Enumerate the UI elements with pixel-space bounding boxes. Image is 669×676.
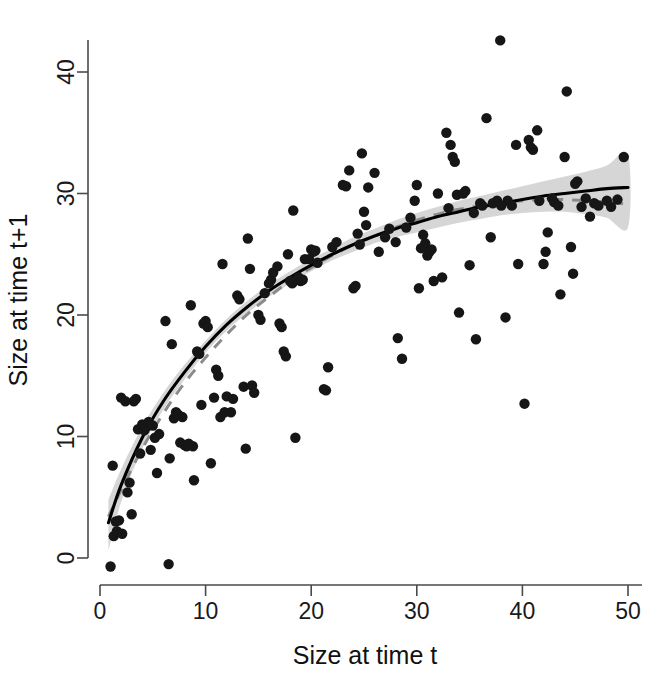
data-point (486, 232, 496, 242)
data-point (374, 247, 384, 257)
y-axis-tick-label: 30 (53, 181, 79, 207)
data-point (177, 412, 187, 422)
x-axis-tick-label: 20 (298, 598, 324, 624)
data-point (350, 281, 360, 291)
data-point (361, 220, 371, 230)
confidence-interval-band (108, 152, 630, 551)
data-point (464, 260, 474, 270)
y-axis-tick-label: 40 (53, 59, 79, 85)
data-point (433, 188, 443, 198)
x-axis-tick-label: 50 (615, 598, 641, 624)
data-point (243, 233, 253, 243)
x-axis-ticks: 01020304050 (94, 585, 641, 624)
data-point (445, 140, 455, 150)
data-point (454, 307, 464, 317)
data-point (384, 224, 394, 234)
y-axis-tick-label: 0 (53, 552, 79, 565)
data-point (471, 334, 481, 344)
data-point (203, 322, 213, 332)
data-point (341, 181, 351, 191)
data-point (107, 460, 117, 470)
scatter-plot-svg: 01020304050 010203040 Size at time t Siz… (0, 0, 669, 676)
x-axis-tick-label: 40 (510, 598, 536, 624)
data-point (272, 261, 282, 271)
data-point (585, 211, 595, 221)
data-point (290, 433, 300, 443)
data-point (131, 394, 141, 404)
data-point (189, 475, 199, 485)
data-point (152, 468, 162, 478)
data-point (540, 247, 550, 257)
confidence-band-group (108, 152, 630, 551)
data-point (194, 349, 204, 359)
data-point (619, 152, 629, 162)
data-point (369, 168, 379, 178)
data-point (507, 200, 517, 210)
data-point (245, 264, 255, 274)
data-points-group (105, 35, 629, 571)
data-point (163, 559, 173, 569)
data-point (612, 194, 622, 204)
data-point (298, 275, 308, 285)
data-point (105, 561, 115, 571)
data-point (409, 196, 419, 206)
data-point (323, 362, 333, 372)
data-point (228, 394, 238, 404)
data-point (437, 272, 447, 282)
data-point (532, 125, 542, 135)
data-point (397, 354, 407, 364)
data-point (401, 222, 411, 232)
data-point (117, 529, 127, 539)
data-point (393, 333, 403, 343)
data-point (312, 258, 322, 268)
data-point (412, 180, 422, 190)
data-point (355, 239, 365, 249)
data-point (241, 443, 251, 453)
data-point (114, 515, 124, 525)
data-point (469, 208, 479, 218)
x-axis-title: Size at time t (293, 641, 438, 669)
data-point (135, 448, 145, 458)
data-point (160, 316, 170, 326)
data-point (213, 371, 223, 381)
data-point (390, 237, 400, 247)
data-point (450, 157, 460, 167)
data-point (234, 294, 244, 304)
data-point (500, 312, 510, 322)
data-point (165, 453, 175, 463)
data-point (283, 249, 293, 259)
fitted-solid-curve (108, 187, 628, 522)
data-point (495, 35, 505, 45)
data-point (321, 385, 331, 395)
axes-group: 01020304050 010203040 (53, 40, 642, 624)
data-point (186, 300, 196, 310)
data-point (363, 182, 373, 192)
data-point (559, 152, 569, 162)
y-axis-tick-label: 10 (53, 424, 79, 450)
data-point (226, 407, 236, 417)
y-axis-ticks: 010203040 (53, 59, 88, 564)
data-point (217, 259, 227, 269)
data-point (260, 288, 270, 298)
data-point (460, 186, 470, 196)
data-point (122, 487, 132, 497)
figure-container: 01020304050 010203040 Size at time t Siz… (0, 0, 669, 676)
data-point (310, 245, 320, 255)
data-point (414, 283, 424, 293)
data-point (511, 140, 521, 150)
data-point (538, 259, 548, 269)
data-point (288, 205, 298, 215)
data-point (196, 400, 206, 410)
data-point (443, 203, 453, 213)
data-point (188, 441, 198, 451)
data-point (359, 207, 369, 217)
data-point (553, 200, 563, 210)
data-point (481, 113, 491, 123)
data-point (555, 289, 565, 299)
fitted-curves-group (108, 187, 628, 522)
data-point (154, 429, 164, 439)
data-point (534, 196, 544, 206)
data-point (126, 509, 136, 519)
x-axis-tick-label: 30 (404, 598, 430, 624)
data-point (249, 388, 259, 398)
